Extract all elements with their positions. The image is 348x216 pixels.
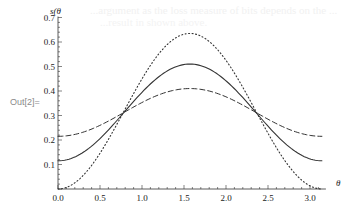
y-axis-title: s(θ <box>50 6 61 16</box>
x-tick-label: 0.0 <box>52 193 64 203</box>
x-axis-title: θ <box>336 178 341 188</box>
axis-labels: 0.00.51.01.52.02.53.00.10.20.30.40.50.60… <box>44 6 341 204</box>
curve-solid <box>58 64 322 161</box>
x-tick-label: 2.5 <box>262 193 274 203</box>
axes <box>58 17 326 190</box>
curve-dotted <box>58 33 322 189</box>
y-tick-label: 0.1 <box>44 160 55 170</box>
x-tick-label: 3.0 <box>304 193 316 203</box>
x-tick-label: 1.0 <box>136 193 148 203</box>
y-tick-label: 0.6 <box>44 37 56 47</box>
x-tick-label: 2.0 <box>220 193 232 203</box>
y-tick-label: 0.5 <box>44 62 56 72</box>
curves <box>58 33 322 189</box>
x-tick-label: 0.5 <box>94 193 106 203</box>
curve-dashed <box>58 89 322 137</box>
y-tick-label: 0.4 <box>44 86 56 96</box>
y-tick-label: 0.2 <box>44 135 55 145</box>
y-tick-label: 0.3 <box>44 111 56 121</box>
x-tick-label: 1.5 <box>178 193 190 203</box>
line-chart: 0.00.51.01.52.02.53.00.10.20.30.40.50.60… <box>0 0 348 216</box>
